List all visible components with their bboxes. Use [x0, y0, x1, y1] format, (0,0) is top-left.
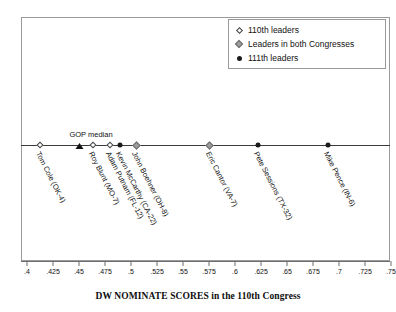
open-diamond-marker-icon: [107, 141, 114, 148]
x-axis-tick: [313, 261, 314, 266]
x-axis-tick-label: .525: [150, 268, 164, 275]
x-axis-tick-label: .75: [386, 268, 396, 275]
filled-circle-marker-icon: [326, 143, 331, 148]
open-diamond-marker-icon: [89, 141, 96, 148]
x-axis-tick-label: .7: [336, 268, 342, 275]
x-axis-tick: [391, 261, 392, 266]
data-point: [89, 141, 98, 150]
data-point: [116, 141, 125, 150]
filled-circle-marker-icon: [118, 143, 123, 148]
x-axis-tick: [235, 261, 236, 266]
x-axis-line: [21, 261, 390, 262]
legend-marker: [233, 41, 245, 47]
gop-median-marker: [75, 142, 84, 149]
data-point: [36, 141, 45, 150]
x-axis-tick-label: .4: [24, 268, 30, 275]
data-point: [324, 141, 333, 150]
gop-median-label: GOP median: [69, 130, 112, 139]
legend-label: Leaders in both Congresses: [248, 40, 354, 49]
x-axis-tick-label: .675: [306, 268, 320, 275]
x-axis-tick-label: .425: [46, 268, 60, 275]
x-axis-tick: [365, 261, 366, 266]
x-axis-tick: [79, 261, 80, 266]
data-point: [132, 141, 141, 150]
legend-label: 110th leaders: [248, 26, 299, 35]
legend-item: Leaders in both Congresses: [233, 37, 381, 51]
gray-diamond-marker-icon: [132, 141, 140, 149]
data-point: [205, 141, 214, 150]
x-axis-tick-label: .725: [358, 268, 372, 275]
x-axis-tick-label: .55: [178, 268, 188, 275]
legend-item: 110th leaders: [233, 23, 381, 37]
x-axis-tick-label: .5: [128, 268, 134, 275]
x-axis-tick: [53, 261, 54, 266]
filled-circle-marker-icon: [256, 143, 261, 148]
legend-marker: [233, 56, 245, 61]
x-axis-tick: [157, 261, 158, 266]
x-axis-tick: [183, 261, 184, 266]
x-axis-tick: [339, 261, 340, 266]
legend-label: 111th leaders: [248, 54, 298, 63]
gray-diamond-marker-icon: [205, 141, 213, 149]
legend-item: 111th leaders: [233, 51, 381, 65]
x-axis-tick: [105, 261, 106, 266]
data-point: [254, 141, 263, 150]
chart-root: 110th leadersLeaders in both Congresses1…: [0, 0, 396, 312]
x-axis-tick-label: .575: [202, 268, 216, 275]
open-diamond-marker-icon: [36, 141, 43, 148]
x-axis-tick-label: .625: [254, 268, 268, 275]
open-diamond-marker-icon: [235, 26, 242, 33]
legend-marker: [233, 28, 245, 33]
x-axis-tick-label: .6: [232, 268, 238, 275]
x-axis-tick: [131, 261, 132, 266]
x-axis-tick-label: .475: [98, 268, 112, 275]
filled-triangle-marker-icon: [75, 143, 83, 149]
x-axis-tick: [27, 261, 28, 266]
x-axis-tick-label: .65: [282, 268, 292, 275]
x-axis-title: DW NOMINATE SCORES in the 110th Congress: [0, 291, 396, 301]
x-axis-tick-label: .45: [74, 268, 84, 275]
gray-diamond-marker-icon: [235, 40, 243, 48]
x-axis-tick: [209, 261, 210, 266]
data-point: [106, 141, 115, 150]
filled-circle-marker-icon: [237, 56, 242, 61]
x-axis-tick: [287, 261, 288, 266]
chart-legend: 110th leadersLeaders in both Congresses1…: [228, 19, 386, 69]
x-axis-tick: [261, 261, 262, 266]
